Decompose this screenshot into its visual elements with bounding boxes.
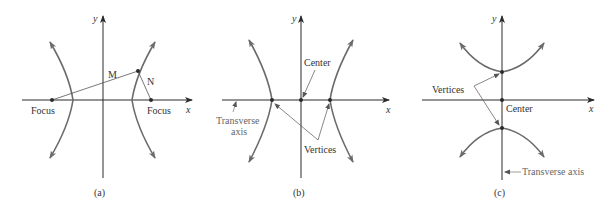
- label-n: N: [147, 76, 154, 87]
- y-axis-label: y: [491, 13, 497, 24]
- center-point: [500, 98, 504, 102]
- hyperbola-upper-branch: [460, 43, 502, 72]
- label-transverse-axis-line2: axis: [231, 126, 247, 137]
- transverse-axis-callout-arrow: [233, 102, 236, 112]
- focus-right-point: [149, 98, 153, 102]
- vertex-left: [270, 98, 274, 102]
- label-center: Center: [506, 103, 533, 114]
- focus-left-point: [50, 98, 54, 102]
- hyperbola-right-branch: [132, 42, 155, 100]
- hyperbola-figure: y x M N Focus Focus (a) y x Center: [0, 0, 614, 210]
- hyperbola-lower-branch: [460, 128, 502, 157]
- label-focus-left: Focus: [31, 105, 55, 116]
- panel-c: y x Vertices Center Transverse axis (c): [422, 13, 594, 199]
- center-callout-arrow: [303, 70, 315, 97]
- segment-m: [52, 71, 138, 100]
- hyperbola-right-branch: [330, 40, 353, 100]
- center-point: [299, 98, 303, 102]
- x-axis-label: x: [185, 104, 191, 115]
- x-axis-label: x: [385, 104, 391, 115]
- label-m: M: [108, 69, 117, 80]
- label-vertices: Vertices: [432, 84, 464, 95]
- label-focus-right: Focus: [147, 105, 171, 116]
- label-vertices: Vertices: [304, 144, 336, 155]
- vertices-callout-arrow-right: [318, 104, 329, 140]
- vertices-callout-arrow-upper: [474, 74, 499, 86]
- label-center: Center: [304, 57, 331, 68]
- caption-c: (c): [494, 187, 505, 199]
- hyperbola-left-branch: [50, 42, 73, 100]
- point-on-curve: [136, 69, 140, 73]
- vertex-right: [328, 98, 332, 102]
- vertices-callout-arrow-left: [275, 104, 318, 140]
- x-axis-label: x: [588, 103, 594, 114]
- panel-a: y x M N Focus Focus (a): [22, 13, 192, 199]
- label-transverse-axis: Transverse axis: [522, 166, 584, 177]
- vertex-upper: [500, 70, 504, 74]
- y-axis-label: y: [92, 13, 98, 24]
- panel-b: y x Center Transverse axis Vertices (b): [216, 13, 391, 199]
- caption-b: (b): [293, 187, 305, 199]
- label-transverse-axis-line1: Transverse: [216, 115, 260, 126]
- hyperbola-left-branch: [249, 40, 272, 100]
- caption-a: (a): [94, 187, 105, 199]
- vertices-callout-arrow-lower: [474, 86, 499, 125]
- vertex-lower: [500, 126, 504, 130]
- y-axis-label: y: [291, 13, 297, 24]
